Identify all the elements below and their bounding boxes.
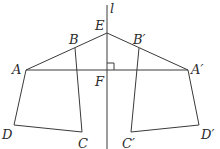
quadrilateral-A-prime-B-prime-C-prime-D-prime: [131, 48, 199, 132]
reflection-diagram: l E F A B D C B′ A′ D′ C′: [0, 0, 220, 149]
right-angle-marker: [107, 63, 114, 70]
label-B: B: [68, 32, 79, 47]
label-F: F: [94, 74, 105, 89]
segment-EA-prime: [107, 33, 188, 70]
label-A-prime: A′: [190, 62, 203, 77]
label-l: l: [110, 1, 114, 16]
label-D: D: [1, 127, 13, 142]
label-B-prime: B′: [132, 32, 146, 47]
label-C-prime: C′: [122, 136, 135, 149]
label-E: E: [94, 18, 105, 33]
segment-AE: [26, 33, 107, 70]
label-A: A: [11, 62, 21, 77]
label-D-prime: D′: [200, 127, 214, 142]
quadrilateral-ABCD: [14, 48, 82, 132]
label-C: C: [78, 136, 88, 149]
